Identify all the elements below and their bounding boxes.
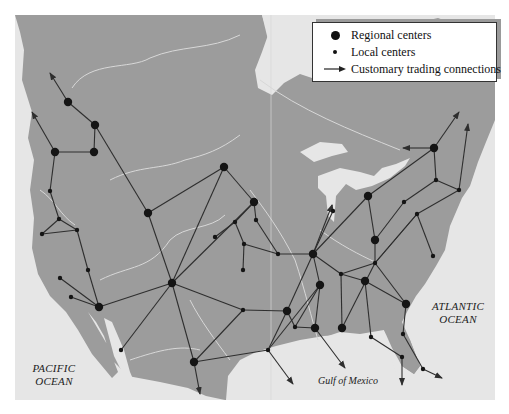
regional-center <box>311 324 319 332</box>
pacific-line1: PACIFIC <box>24 362 84 375</box>
regional-center <box>364 192 372 200</box>
local-center <box>457 188 461 192</box>
regional-center <box>64 98 72 106</box>
regional-center <box>283 307 291 315</box>
gulf-of-mexico-label: Gulf of Mexico <box>318 375 378 386</box>
local-center <box>415 212 419 216</box>
atlantic-line2: OCEAN <box>426 313 490 326</box>
local-center <box>339 272 343 276</box>
local-center-icon <box>333 50 337 54</box>
local-center <box>86 268 90 272</box>
local-center <box>119 348 123 352</box>
regional-center <box>51 148 59 156</box>
local-center <box>213 235 217 239</box>
local-center <box>421 367 425 371</box>
local-center <box>266 348 270 352</box>
local-center <box>401 332 405 336</box>
local-center <box>373 261 377 265</box>
local-center <box>69 295 73 299</box>
local-center <box>431 254 435 258</box>
local-center <box>75 228 79 232</box>
legend-label: Regional centers <box>349 28 431 43</box>
local-center <box>402 200 406 204</box>
local-center <box>331 209 335 213</box>
regional-center-icon <box>331 31 340 40</box>
regional-center <box>250 198 258 206</box>
regional-center <box>371 236 379 244</box>
legend-label: Customary trading connections <box>349 62 501 77</box>
legend-label: Local centers <box>349 45 415 60</box>
regional-center <box>309 250 317 258</box>
regional-center <box>402 300 410 308</box>
atlantic-line1: ATLANTIC <box>426 300 490 313</box>
arrow-right-icon <box>323 65 347 73</box>
local-center <box>276 252 280 256</box>
legend-regional: Regional centers <box>321 27 431 43</box>
local-center <box>254 218 258 222</box>
regional-center <box>338 324 346 332</box>
regional-center <box>168 279 176 287</box>
map-legend: Regional centers Local centers Customary… <box>312 22 497 82</box>
local-center <box>48 189 52 193</box>
regional-center <box>361 277 369 285</box>
regional-center <box>430 144 438 152</box>
regional-center <box>220 163 228 171</box>
pacific-ocean-label: PACIFIC OCEAN <box>24 362 84 388</box>
regional-center <box>95 303 103 311</box>
regional-center <box>90 148 98 156</box>
legend-local: Local centers <box>321 44 415 60</box>
legend-trade: Customary trading connections <box>321 61 501 77</box>
local-center <box>434 178 438 182</box>
local-center <box>40 232 44 236</box>
regional-center <box>316 281 324 289</box>
local-center <box>58 276 62 280</box>
pacific-line2: OCEAN <box>24 375 84 388</box>
local-center <box>241 308 245 312</box>
regional-center <box>144 209 152 217</box>
atlantic-ocean-label: ATLANTIC OCEAN <box>426 300 490 326</box>
local-center <box>400 355 404 359</box>
local-center <box>293 325 297 329</box>
local-center <box>57 217 61 221</box>
local-center <box>369 335 373 339</box>
regional-center <box>91 121 99 129</box>
local-center <box>233 220 237 224</box>
local-center <box>241 268 245 272</box>
local-center <box>242 242 246 246</box>
regional-center <box>190 358 198 366</box>
